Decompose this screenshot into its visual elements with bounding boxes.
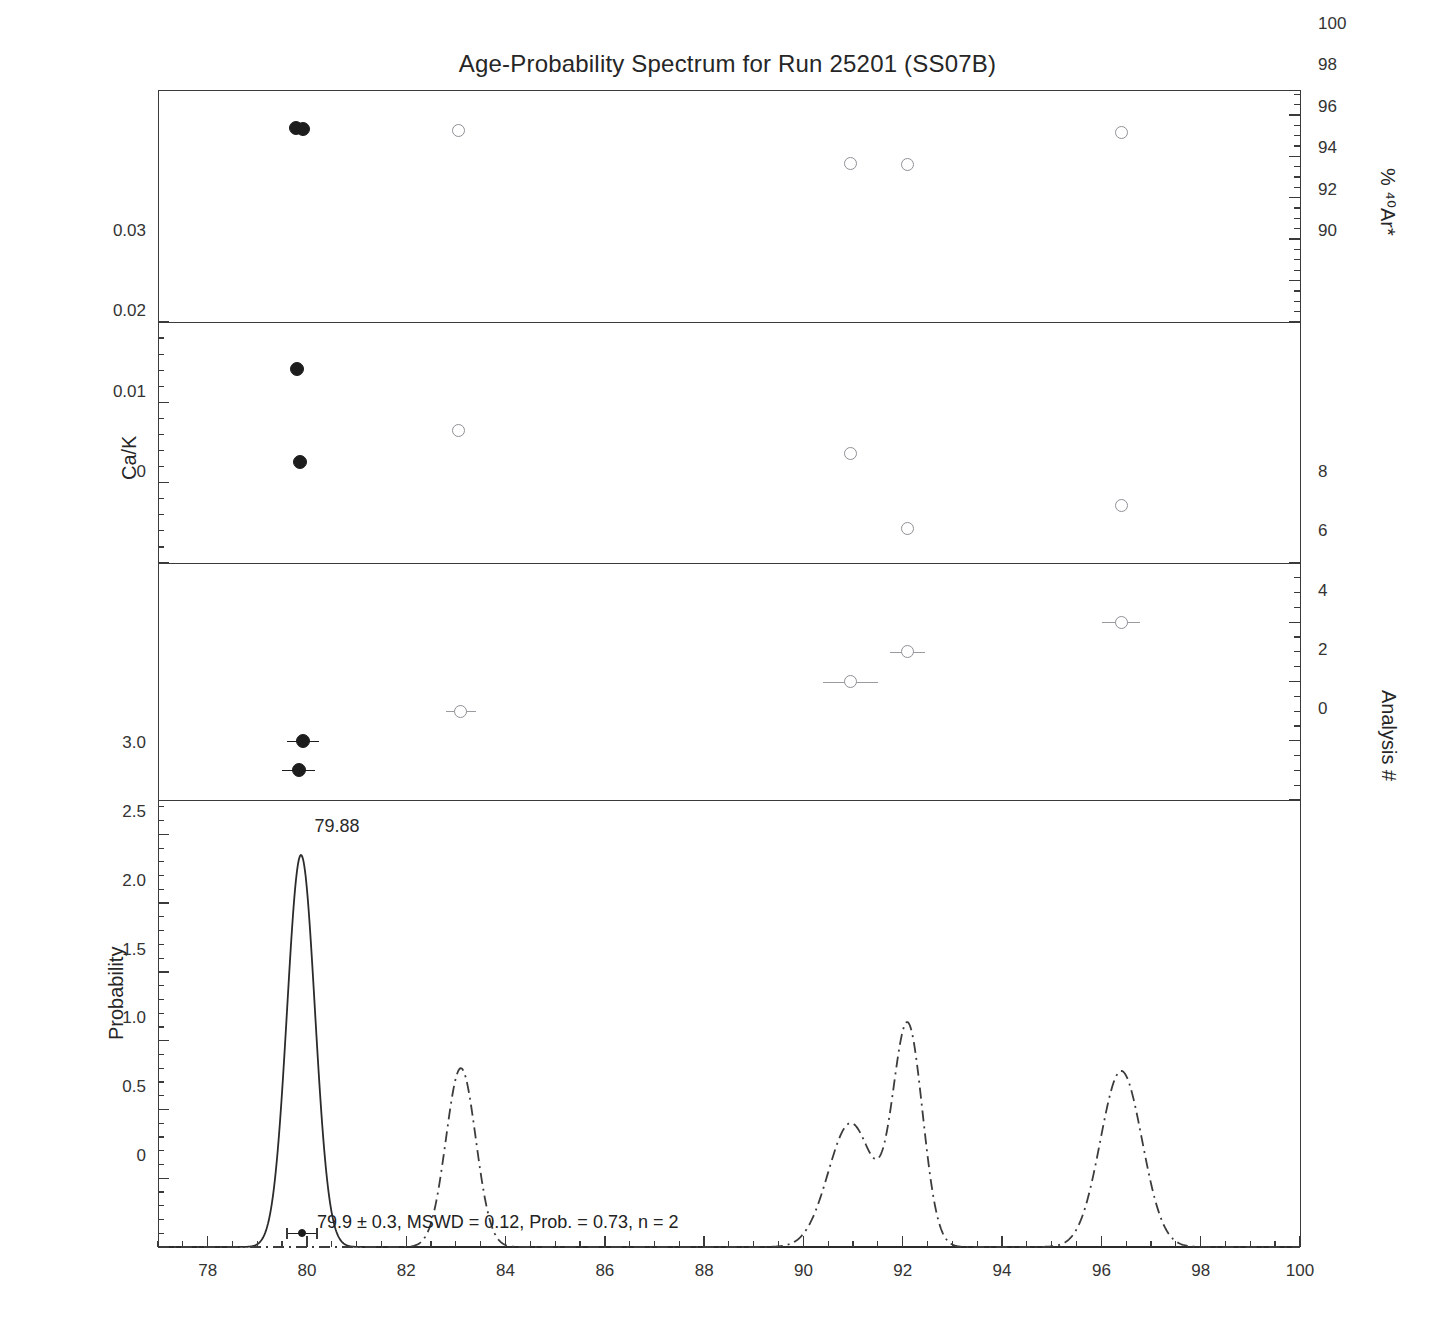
x-tick-major xyxy=(505,1236,506,1247)
y-tick-label: 1.0 xyxy=(28,1008,146,1028)
y-tick-major xyxy=(1289,280,1300,281)
data-point-included[interactable] xyxy=(296,122,310,136)
panel-divider xyxy=(158,322,1300,323)
x-tick-label: 88 xyxy=(664,1261,744,1281)
x-tick-minor xyxy=(257,1241,258,1247)
data-point-excluded[interactable] xyxy=(452,424,465,437)
y-tick-minor xyxy=(158,546,164,547)
data-point-included[interactable] xyxy=(290,362,304,376)
x-tick-major xyxy=(1200,1236,1201,1247)
data-point-included[interactable] xyxy=(296,734,310,748)
y-tick-label: 6 xyxy=(1318,521,1327,541)
y-tick-label: 2.5 xyxy=(28,802,146,822)
x-tick-minor xyxy=(430,1241,431,1247)
ar40-panel xyxy=(158,90,1300,322)
x-tick-label: 86 xyxy=(565,1261,645,1281)
x-tick-minor xyxy=(555,1241,556,1247)
x-tick-major xyxy=(1101,1236,1102,1247)
y-tick-label: 92 xyxy=(1318,180,1337,200)
y-tick-minor xyxy=(1294,711,1300,712)
y-tick-minor xyxy=(1294,636,1300,637)
y-tick-minor xyxy=(1294,135,1300,136)
data-point-included[interactable] xyxy=(292,763,306,777)
x-tick-minor xyxy=(778,1241,779,1247)
x-tick-major xyxy=(306,1236,307,1247)
data-point-excluded[interactable] xyxy=(901,522,914,535)
data-point-excluded[interactable] xyxy=(1115,126,1128,139)
x-tick-label: 78 xyxy=(168,1261,248,1281)
y-tick-major xyxy=(1289,156,1300,157)
y-tick-label: 2.0 xyxy=(28,871,146,891)
y-tick-major xyxy=(1289,740,1300,741)
x-tick-major xyxy=(703,1236,704,1247)
y-tick-minor xyxy=(158,514,164,515)
y-tick-minor xyxy=(1294,770,1300,771)
data-point-excluded[interactable] xyxy=(844,447,857,460)
x-tick-minor xyxy=(1126,1241,1127,1247)
y-tick-label: 0.01 xyxy=(28,382,146,402)
y-tick-minor xyxy=(1294,125,1300,126)
data-point-excluded[interactable] xyxy=(454,705,467,718)
y-tick-minor xyxy=(1294,725,1300,726)
x-tick-minor xyxy=(480,1241,481,1247)
x-tick-minor xyxy=(828,1241,829,1247)
error-bar-cap xyxy=(286,1228,288,1239)
x-tick-minor xyxy=(157,1241,158,1247)
y-tick-major xyxy=(1289,681,1300,682)
x-tick-minor xyxy=(1274,1241,1275,1247)
stats-annotation: 79.9 ± 0.3, MSWD = 0.12, Prob. = 0.73, n… xyxy=(317,1212,679,1233)
data-point-excluded[interactable] xyxy=(901,158,914,171)
plot-area: 79.8879.9 ± 0.3, MSWD = 0.12, Prob. = 0.… xyxy=(158,90,1300,1247)
y-tick-minor xyxy=(158,337,164,338)
y-tick-minor xyxy=(158,354,164,355)
x-tick-minor xyxy=(877,1241,878,1247)
peak-age-label: 79.88 xyxy=(314,816,359,837)
analysis-panel xyxy=(158,563,1300,800)
plot-right-spine xyxy=(1300,90,1301,1247)
cak-panel xyxy=(158,322,1300,563)
x-tick-minor xyxy=(977,1241,978,1247)
x-tick-major xyxy=(207,1236,208,1247)
x-tick-minor xyxy=(356,1241,357,1247)
data-point-excluded[interactable] xyxy=(452,124,465,137)
probability-panel: 79.8879.9 ± 0.3, MSWD = 0.12, Prob. = 0.… xyxy=(158,800,1300,1247)
y-tick-major xyxy=(1289,562,1300,563)
x-tick-minor xyxy=(232,1241,233,1247)
y-tick-minor xyxy=(1294,187,1300,188)
probability-curves xyxy=(158,800,1300,1247)
data-point-excluded[interactable] xyxy=(844,675,857,688)
panel-divider xyxy=(158,90,1300,91)
x-tick-label: 100 xyxy=(1260,1261,1340,1281)
x-tick-minor xyxy=(1150,1241,1151,1247)
y-tick-minor xyxy=(1294,270,1300,271)
x-tick-label: 82 xyxy=(366,1261,446,1281)
x-tick-major xyxy=(604,1236,605,1247)
y-tick-label: 0 xyxy=(28,462,146,482)
y-tick-minor xyxy=(1294,145,1300,146)
y-tick-label: 98 xyxy=(1318,55,1337,75)
data-point-excluded[interactable] xyxy=(901,645,914,658)
x-tick-minor xyxy=(927,1241,928,1247)
y-tick-minor xyxy=(158,434,164,435)
x-tick-minor xyxy=(654,1241,655,1247)
y-tick-label: 3.0 xyxy=(28,733,146,753)
x-tick-minor xyxy=(530,1241,531,1247)
data-point-excluded[interactable] xyxy=(1115,616,1128,629)
y-tick-minor xyxy=(158,498,164,499)
y-tick-minor xyxy=(158,466,164,467)
included-probability xyxy=(158,855,1300,1247)
chart-canvas: Age-Probability Spectrum for Run 25201 (… xyxy=(0,0,1455,1338)
x-tick-minor xyxy=(281,1241,282,1247)
data-point-excluded[interactable] xyxy=(844,157,857,170)
x-tick-minor xyxy=(1250,1241,1251,1247)
x-tick-minor xyxy=(679,1241,680,1247)
x-tick-label: 96 xyxy=(1061,1261,1141,1281)
x-tick-major xyxy=(406,1236,407,1247)
y-tick-label: 1.5 xyxy=(28,940,146,960)
data-point-excluded[interactable] xyxy=(1115,499,1128,512)
x-tick-label: 90 xyxy=(763,1261,843,1281)
y-tick-label: 8 xyxy=(1318,462,1327,482)
y-tick-minor xyxy=(1294,290,1300,291)
y-tick-label: 0.02 xyxy=(28,301,146,321)
data-point-included[interactable] xyxy=(293,455,307,469)
